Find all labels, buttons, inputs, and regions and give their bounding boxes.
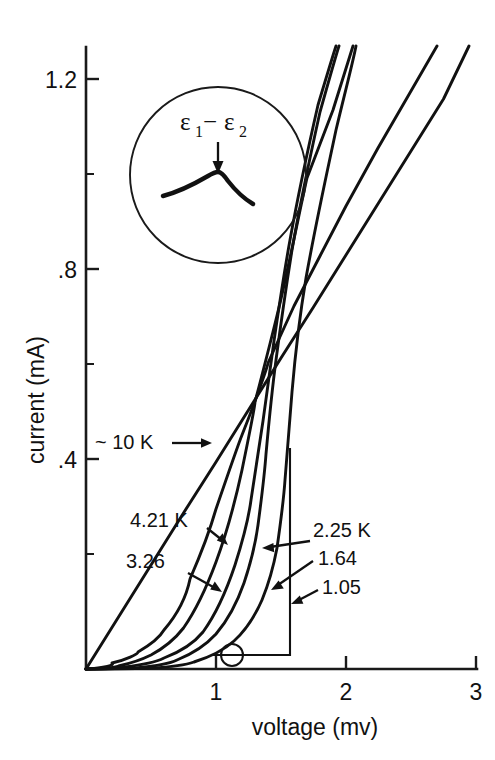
inset-down-arrow-icon	[213, 142, 224, 174]
leader-1.64K	[271, 561, 313, 590]
inset-eps2: ε	[224, 108, 235, 135]
axes-group: 1.2 .8 .4 1 2 3 voltage (mv) current (mA…	[23, 47, 482, 740]
label-10K: ~ 10 K	[95, 431, 154, 453]
leader-2.25K	[262, 541, 310, 552]
figure-root: 1.2 .8 .4 1 2 3 voltage (mv) current (mA…	[0, 0, 495, 760]
x-axis-title: voltage (mv)	[252, 714, 379, 740]
y-axis-title: current (mA)	[23, 336, 49, 464]
label-2.25K: 2.25 K	[313, 519, 371, 541]
leader-1.05K	[291, 590, 318, 604]
y-ticklabel-0.4: .4	[58, 447, 77, 473]
x-ticklabel-3: 3	[470, 679, 483, 705]
curve-1.64K	[86, 46, 339, 669]
curves-group	[86, 46, 469, 669]
inset-minus: −	[203, 108, 217, 135]
inset-eps1: ε	[180, 108, 191, 135]
inset-circle-outline	[130, 87, 306, 263]
label-4.21K: 4.21 K	[130, 509, 188, 531]
curve-4.21K	[86, 46, 437, 669]
label-3.26K: 3.26	[126, 550, 165, 572]
curve-1.05K	[86, 46, 356, 669]
gap-structure-inset: ε 1 − ε 2	[130, 87, 306, 263]
x-ticklabel-2: 2	[340, 679, 353, 705]
inset-eps1-sub: 1	[195, 123, 203, 140]
iv-characteristic-plot: 1.2 .8 .4 1 2 3 voltage (mv) current (mA…	[0, 0, 495, 760]
inset-eps2-sub: 2	[239, 123, 247, 140]
y-ticklabel-1.2: 1.2	[45, 67, 77, 93]
inset-annotation-text: ε 1 − ε 2	[180, 108, 247, 140]
label-1.64K: 1.64	[318, 547, 357, 569]
leader-10K	[172, 438, 212, 448]
x-ticklabel-1: 1	[210, 679, 223, 705]
label-1.05K: 1.05	[322, 576, 361, 598]
y-ticklabel-0.8: .8	[58, 257, 77, 283]
inset-cusp-curve	[163, 172, 253, 204]
